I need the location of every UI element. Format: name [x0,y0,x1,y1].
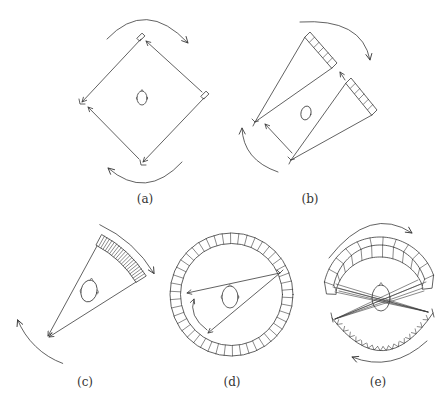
panel-label-b: (b) [301,192,318,206]
panel-label-d: (d) [223,375,240,389]
background [0,0,448,402]
panel-label-e: (e) [370,375,386,389]
panel-label-c: (c) [77,375,93,389]
ct-scanner-generations-figure: (a) (b) [0,0,448,402]
panel-label-a: (a) [137,192,154,206]
